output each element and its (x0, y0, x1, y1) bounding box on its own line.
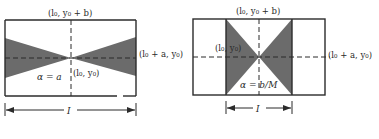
right-dimension-label: I (255, 104, 260, 114)
left-panel: (l₀, y₀ + b) (l₀ + a, y₀) (l₀, y₀) α = a… (5, 8, 183, 116)
right-top-label: (l₀, y₀ + b) (236, 6, 280, 16)
left-right-label: (l₀ + a, y₀) (139, 49, 183, 59)
right-center-label: (l₀, y₀) (215, 43, 241, 53)
left-dimension-label: I (66, 106, 71, 116)
left-center-label: (l₀, y₀) (73, 68, 99, 78)
right-alpha-label: α = b/M (240, 80, 278, 90)
right-panel: (l₀, y₀ + b) (l₀ + a, y₀) (l₀, y₀) α = b… (193, 6, 372, 114)
left-top-label: (l₀, y₀ + b) (48, 8, 92, 18)
diagram-canvas: (l₀, y₀ + b) (l₀ + a, y₀) (l₀, y₀) α = a… (0, 0, 379, 139)
left-alpha-label: α = a (37, 72, 62, 82)
right-right-label: (l₀ + a, y₀) (328, 50, 372, 60)
